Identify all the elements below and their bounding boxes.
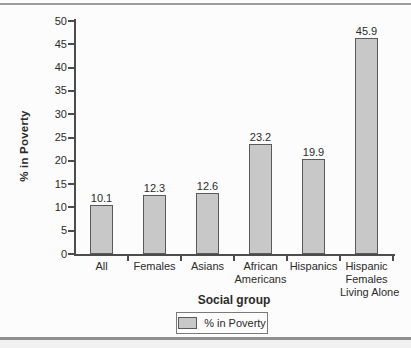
y-tick-mark (68, 137, 75, 139)
category-label-line: African (234, 260, 287, 273)
bar-value-label: 12.6 (181, 180, 234, 192)
y-tick-label: 40 (34, 61, 67, 74)
bar-females (143, 195, 166, 254)
bar-african-americans (249, 144, 272, 254)
category-label-line: Asians (181, 260, 234, 273)
y-tick-label: 0 (34, 248, 67, 261)
y-tick-label: 15 (34, 178, 67, 191)
category-label-all: All (75, 260, 128, 273)
category-label-line: All (75, 260, 128, 273)
top-horizontal-rule (0, 3, 411, 5)
bar-asians (196, 193, 219, 254)
y-tick-label: 30 (34, 108, 67, 121)
y-tick-mark (68, 160, 75, 162)
scanned-chart-page: % in Poverty 05101520253035404550 10.112… (0, 0, 411, 348)
y-tick-label: 50 (34, 15, 67, 28)
category-label-line: Americans (234, 273, 287, 286)
y-tick-label: 10 (34, 201, 67, 214)
bar-hispanic-females-living-alone (355, 38, 378, 254)
y-tick-mark (68, 20, 75, 22)
category-label-females: Females (128, 260, 181, 273)
y-tick-mark (68, 113, 75, 115)
y-tick-label: 45 (34, 38, 67, 51)
category-label-line: Hispanics (287, 260, 340, 273)
category-label-african-americans: AfricanAmericans (234, 260, 287, 286)
y-tick-label: 35 (34, 84, 67, 97)
category-label-line: Females (128, 260, 181, 273)
bar-value-label: 19.9 (287, 146, 340, 158)
legend-swatch (178, 317, 197, 329)
bar-value-label: 12.3 (128, 182, 181, 194)
category-label-line: Hispanic (340, 260, 393, 273)
bar-hispanics (302, 159, 325, 254)
y-tick-mark (68, 90, 75, 92)
y-tick-mark (68, 43, 75, 45)
y-tick-mark (68, 230, 75, 232)
bar-value-label: 10.1 (75, 192, 128, 204)
x-axis-title: Social group (75, 293, 393, 307)
legend-label: % in Poverty (204, 317, 266, 329)
y-axis-title: % in Poverty (18, 110, 30, 181)
y-tick-label: 25 (34, 131, 67, 144)
legend: % in Poverty (176, 312, 268, 334)
y-tick-label: 5 (34, 224, 67, 237)
category-label-asians: Asians (181, 260, 234, 273)
y-tick-mark (68, 183, 75, 185)
y-tick-mark (68, 206, 75, 208)
category-label-hispanics: Hispanics (287, 260, 340, 273)
category-label-line: Females (340, 273, 393, 286)
y-tick-mark (68, 253, 75, 255)
bar-all (90, 205, 113, 254)
bar-value-label: 23.2 (234, 131, 287, 143)
bottom-margin-strip (0, 340, 411, 348)
y-tick-label: 20 (34, 154, 67, 167)
plot-area: 10.112.312.623.219.945.9 (75, 21, 393, 254)
y-tick-mark (68, 67, 75, 69)
bar-value-label: 45.9 (340, 25, 393, 37)
